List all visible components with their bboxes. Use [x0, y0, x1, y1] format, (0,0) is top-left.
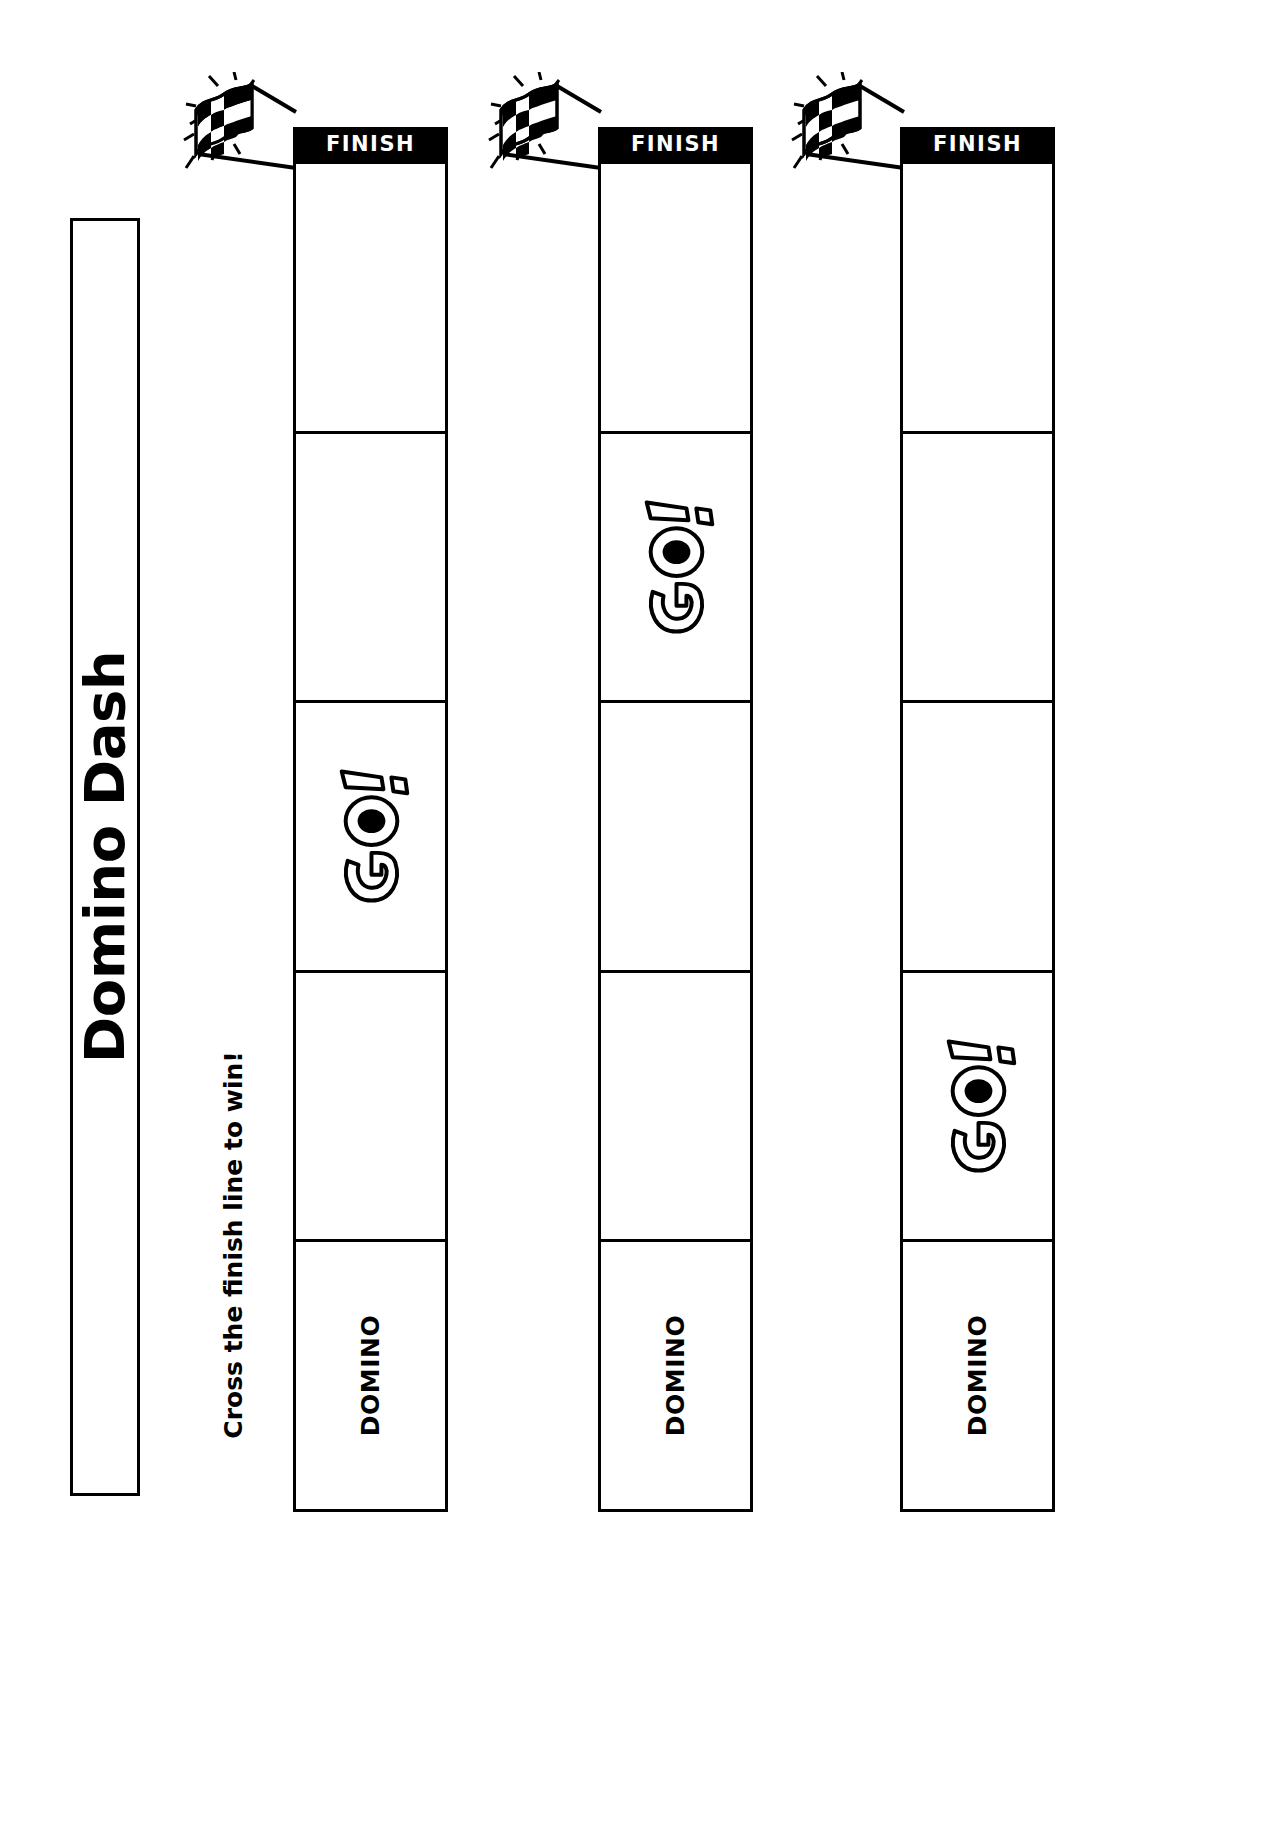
checkered-flag-icon — [786, 72, 906, 182]
track-cell[interactable] — [296, 973, 445, 1243]
finish-banner: FINISH — [900, 127, 1055, 161]
go-text-icon — [328, 762, 414, 911]
finish-banner: FINISH — [293, 127, 448, 161]
track-cell-domino[interactable]: DOMINO — [903, 1242, 1052, 1509]
go-text-icon — [935, 1032, 1021, 1181]
instruction-text: Cross the finish line to win! — [221, 1051, 246, 1438]
domino-track: FINISH DOMINO — [900, 127, 1055, 1512]
track-cell[interactable] — [903, 434, 1052, 704]
track-cell-go[interactable] — [601, 434, 750, 704]
domino-track: FINISH DOMINO — [598, 127, 753, 1512]
track-cell[interactable] — [903, 703, 1052, 973]
track-cell-domino[interactable]: DOMINO — [601, 1242, 750, 1509]
track-cell[interactable] — [903, 164, 1052, 434]
track-cell[interactable] — [296, 164, 445, 434]
track-cell-domino[interactable]: DOMINO — [296, 1242, 445, 1509]
subtitle-wrap: Cross the finish line to win! — [205, 1040, 261, 1450]
finish-label: FINISH — [631, 134, 720, 155]
domino-label: DOMINO — [965, 1315, 990, 1436]
domino-label: DOMINO — [663, 1315, 688, 1436]
track-cell-go[interactable] — [903, 973, 1052, 1243]
finish-banner: FINISH — [598, 127, 753, 161]
checkered-flag-icon — [178, 72, 298, 182]
title-box: Domino Dash — [70, 218, 140, 1496]
finish-label: FINISH — [933, 134, 1022, 155]
go-text-icon — [633, 492, 719, 641]
finish-label: FINISH — [326, 134, 415, 155]
track-cell[interactable] — [601, 703, 750, 973]
worksheet-page: Domino Dash Cross the finish line to win… — [0, 0, 1282, 1834]
domino-label: DOMINO — [358, 1315, 383, 1436]
track-cell[interactable] — [601, 164, 750, 434]
track-grid: DOMINO — [900, 161, 1055, 1512]
checkered-flag-icon — [483, 72, 603, 182]
subtitle-rotator: Cross the finish line to win! — [221, 1051, 246, 1438]
track-grid: DOMINO — [293, 161, 448, 1512]
track-cell[interactable] — [296, 434, 445, 704]
domino-track: FINISH DOMINO — [293, 127, 448, 1512]
track-cell[interactable] — [601, 973, 750, 1243]
track-cell-go[interactable] — [296, 703, 445, 973]
page-title: Domino Dash — [77, 651, 133, 1063]
track-grid: DOMINO — [598, 161, 753, 1512]
title-rotator: Domino Dash — [77, 651, 133, 1063]
